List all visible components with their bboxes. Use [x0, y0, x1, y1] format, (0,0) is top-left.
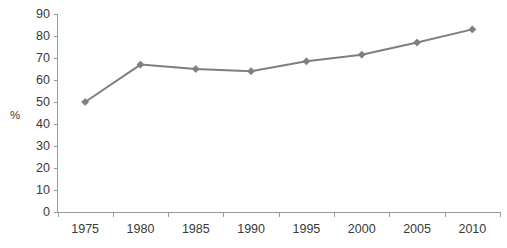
y-axis-tick-label: 20 [18, 162, 50, 175]
x-axis-tick-label: 1985 [166, 223, 226, 236]
x-axis-tick-label: 2005 [387, 223, 447, 236]
y-axis-tick-label: 90 [18, 8, 50, 21]
x-axis-tick-label: 1995 [276, 223, 336, 236]
y-axis-tick-label: 40 [18, 118, 50, 131]
y-axis-title: % [10, 110, 20, 122]
chart-plot-area [0, 0, 507, 248]
chart-series-group [82, 26, 476, 106]
y-axis-tick-label: 0 [18, 206, 50, 219]
y-axis-tick-label: 50 [18, 96, 50, 109]
x-axis-tick-label: 2000 [332, 223, 392, 236]
y-axis-tick-label: 10 [18, 184, 50, 197]
x-axis-tick-label: 1990 [221, 223, 281, 236]
y-axis-ticks [54, 15, 58, 213]
y-axis-tick-label: 80 [18, 30, 50, 43]
data-point-marker [469, 26, 476, 33]
y-axis-tick-label: 70 [18, 52, 50, 65]
x-axis-tick-label: 1975 [55, 223, 115, 236]
y-axis-tick-label: 30 [18, 140, 50, 153]
x-axis-tick-label: 2010 [442, 223, 502, 236]
data-point-marker [413, 39, 420, 46]
data-point-marker [192, 65, 199, 72]
x-axis-tick-label: 1980 [110, 223, 170, 236]
chart-axes [58, 14, 501, 213]
data-point-marker [247, 68, 254, 75]
line-chart: 0102030405060708090 19751980198519901995… [0, 0, 507, 248]
data-point-marker [358, 51, 365, 58]
data-point-marker [303, 58, 310, 65]
y-axis-tick-label: 60 [18, 74, 50, 87]
